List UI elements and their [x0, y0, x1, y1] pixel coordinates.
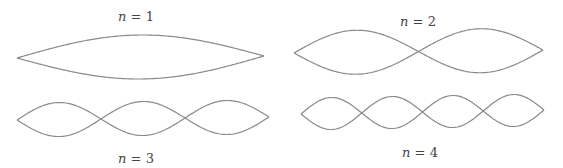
wave-envelope-lower	[294, 29, 543, 75]
mode-label-1: n = 1	[118, 9, 154, 24]
mode-label-2: n = 2	[400, 14, 436, 29]
wave-mode-1	[17, 35, 264, 79]
mode-label-3: n = 3	[118, 151, 154, 166]
wave-envelope-upper	[17, 101, 269, 136]
wave-envelope-lower	[17, 56, 264, 79]
mode-label-value: = 4	[410, 145, 437, 160]
wave-envelope-upper	[17, 35, 264, 58]
wave-envelope-lower	[301, 95, 544, 130]
wave-mode-4	[301, 95, 544, 130]
wave-envelope-lower	[17, 102, 269, 137]
wave-mode-3	[17, 101, 269, 137]
wave-mode-2	[294, 29, 543, 75]
mode-label-value: = 2	[408, 14, 435, 29]
mode-label-value: = 3	[126, 151, 153, 166]
mode-label-4: n = 4	[402, 145, 438, 160]
standing-wave-diagram	[0, 0, 563, 168]
mode-label-value: = 1	[126, 9, 153, 24]
